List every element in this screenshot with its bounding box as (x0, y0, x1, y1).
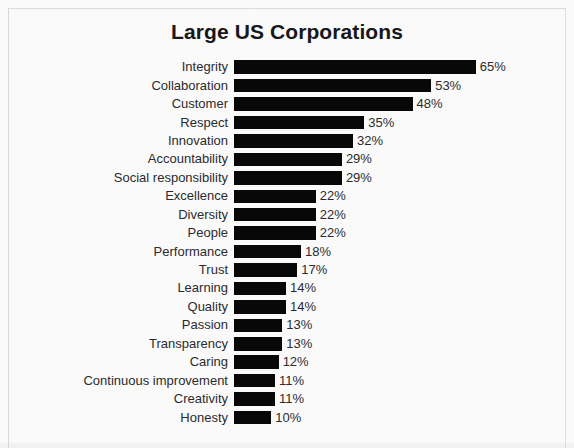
bar (234, 300, 286, 314)
bar-track: 32% (234, 134, 574, 148)
bar-value-label: 14% (290, 281, 316, 295)
bar-value-label: 53% (435, 79, 461, 93)
bar (234, 319, 282, 333)
bar (234, 226, 316, 240)
bar-track: 13% (234, 319, 574, 333)
category-label: Customer (0, 97, 228, 111)
bar-value-label: 13% (286, 337, 312, 351)
bar-track: 35% (234, 116, 574, 130)
bar-track: 65% (234, 60, 574, 74)
category-label: Caring (0, 355, 228, 369)
bar-row: People22% (0, 224, 574, 242)
category-label: Continuous improvement (0, 374, 228, 388)
bar-track: 29% (234, 153, 574, 167)
bar-value-label: 11% (279, 392, 304, 406)
bar-row: Honesty10% (0, 408, 574, 426)
bar-row: Collaboration53% (0, 76, 574, 94)
bar-row: Continuous improvement11% (0, 371, 574, 389)
bar-row: Caring12% (0, 353, 574, 371)
bar-value-label: 48% (417, 97, 443, 111)
category-label: Accountability (0, 152, 228, 166)
category-label: Integrity (0, 60, 228, 74)
category-label: Respect (0, 116, 228, 130)
category-label: Diversity (0, 208, 228, 222)
bar (234, 411, 271, 425)
bar-track: 14% (234, 300, 574, 314)
bar-row: Accountability29% (0, 150, 574, 168)
bar-value-label: 13% (286, 318, 312, 332)
bar-row: Creativity11% (0, 390, 574, 408)
bar-value-label: 11% (279, 374, 304, 388)
category-label: Learning (0, 281, 228, 295)
bar (234, 282, 286, 296)
bar-row: Passion13% (0, 316, 574, 334)
bar-track: 11% (234, 392, 574, 406)
bar (234, 134, 353, 148)
bar-value-label: 29% (346, 152, 372, 166)
category-label: Collaboration (0, 79, 228, 93)
bar (234, 60, 476, 74)
bar-track: 53% (234, 79, 574, 93)
bar-track: 48% (234, 97, 574, 111)
bar-track: 22% (234, 208, 574, 222)
bar-track: 17% (234, 263, 574, 277)
bar (234, 116, 364, 130)
bar-track: 22% (234, 226, 574, 240)
bar-track: 22% (234, 190, 574, 204)
bar-row: Excellence22% (0, 187, 574, 205)
category-label: Creativity (0, 392, 228, 406)
bar-track: 10% (234, 411, 574, 425)
bar-row: Innovation32% (0, 132, 574, 150)
bar-row: Quality14% (0, 298, 574, 316)
bar-row: Learning14% (0, 279, 574, 297)
bar-track: 18% (234, 245, 574, 259)
bar-value-label: 29% (346, 171, 372, 185)
bar (234, 190, 316, 204)
chart-title: Large US Corporations (0, 20, 574, 44)
bar-value-label: 10% (275, 411, 301, 425)
category-label: Trust (0, 263, 228, 277)
bar-value-label: 35% (368, 116, 394, 130)
bar (234, 392, 275, 406)
bar-track: 11% (234, 374, 574, 388)
bar-chart-plot-area: Integrity65%Collaboration53%Customer48%R… (0, 58, 574, 427)
bar-row: Trust17% (0, 261, 574, 279)
bar-value-label: 22% (320, 208, 346, 222)
bar (234, 79, 431, 93)
bar (234, 153, 342, 167)
bar-row: Social responsibility29% (0, 169, 574, 187)
bar (234, 208, 316, 222)
bar-value-label: 32% (357, 134, 383, 148)
bar (234, 355, 279, 369)
bar-row: Customer48% (0, 95, 574, 113)
bar-row: Performance18% (0, 242, 574, 260)
bar-row: Diversity22% (0, 206, 574, 224)
bar-track: 14% (234, 282, 574, 296)
category-label: Excellence (0, 189, 228, 203)
bar (234, 245, 301, 259)
bar-value-label: 65% (480, 60, 506, 74)
bar (234, 374, 275, 388)
category-label: Quality (0, 300, 228, 314)
category-label: Passion (0, 318, 228, 332)
bar-value-label: 12% (283, 355, 309, 369)
bar-value-label: 14% (290, 300, 316, 314)
bar (234, 337, 282, 351)
category-label: Performance (0, 245, 228, 259)
bar-value-label: 22% (320, 226, 346, 240)
category-label: Social responsibility (0, 171, 228, 185)
bar-value-label: 18% (305, 245, 331, 259)
bar (234, 97, 413, 111)
bar-row: Respect35% (0, 113, 574, 131)
bar-track: 29% (234, 171, 574, 185)
bar-row: Integrity65% (0, 58, 574, 76)
bar-value-label: 17% (301, 263, 327, 277)
category-label: Honesty (0, 411, 228, 425)
bar-row: Transparency13% (0, 335, 574, 353)
bar (234, 171, 342, 185)
bar-value-label: 22% (320, 189, 346, 203)
category-label: Transparency (0, 337, 228, 351)
bar-track: 12% (234, 355, 574, 369)
category-label: Innovation (0, 134, 228, 148)
